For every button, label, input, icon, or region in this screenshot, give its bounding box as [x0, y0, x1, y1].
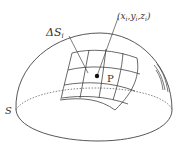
base-ellipse-front [16, 110, 172, 141]
sample-point-dot [95, 74, 99, 78]
label-delta-s: ΔSi [45, 26, 64, 40]
hemisphere-dome [16, 33, 172, 110]
label-point-p: P [107, 73, 114, 84]
base-ellipse-back [16, 88, 172, 110]
label-surface-s: S [5, 105, 12, 116]
hemisphere-diagram: ΔSi (xi,yi,zi) P S [0, 0, 179, 149]
surface-grid [60, 49, 140, 110]
shade-line [154, 65, 165, 90]
label-point-coords: (xi,yi,zi) [117, 11, 151, 22]
